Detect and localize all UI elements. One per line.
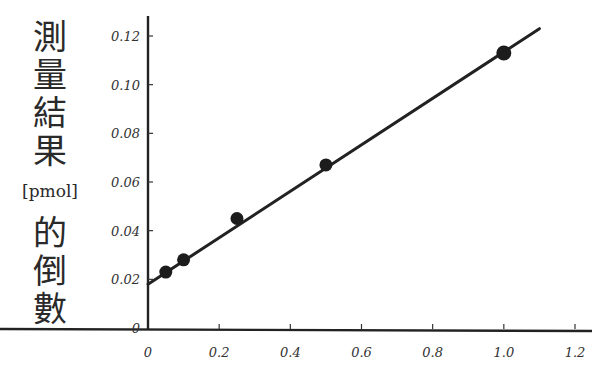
data-point xyxy=(230,212,243,225)
x-tick-label: 0.8 xyxy=(422,345,443,360)
x-tick-label: 1.2 xyxy=(565,345,586,360)
data-point xyxy=(496,46,511,61)
chart-plot-area: 00.020.040.060.080.100.12 00.20.40.60.81… xyxy=(0,0,614,374)
data-point xyxy=(159,266,172,279)
fit-line xyxy=(148,29,539,285)
y-tick-label: 0.06 xyxy=(111,175,140,190)
x-tick-label: 1.0 xyxy=(493,345,514,360)
x-tick-label: 0.2 xyxy=(209,345,230,360)
data-point xyxy=(177,253,190,266)
y-tick-label: 0.02 xyxy=(111,272,140,287)
data-series xyxy=(148,29,539,285)
y-tick-label: 0.12 xyxy=(111,29,140,44)
y-tick-label: 0.08 xyxy=(111,126,140,141)
x-tick-label: 0.6 xyxy=(351,345,372,360)
y-tick-label: 0 xyxy=(132,321,140,336)
y-tick-label: 0.10 xyxy=(111,78,140,93)
data-point xyxy=(319,158,332,171)
x-tick-label: 0 xyxy=(144,345,152,360)
y-ticks: 00.020.040.060.080.100.12 xyxy=(111,29,153,336)
y-tick-label: 0.04 xyxy=(111,224,140,239)
x-tick-label: 0.4 xyxy=(280,345,301,360)
x-axis-line xyxy=(0,329,592,331)
axes xyxy=(0,16,592,331)
